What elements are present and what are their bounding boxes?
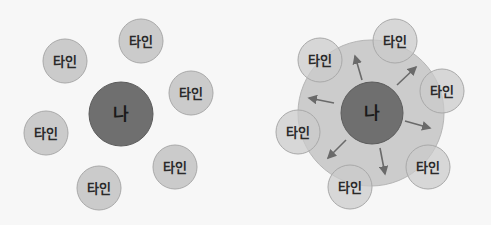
me-label: 나: [113, 104, 129, 124]
other-label: 타인: [34, 126, 58, 141]
other-label: 타인: [53, 54, 77, 69]
other-label: 타인: [383, 34, 407, 49]
other-label: 타인: [338, 180, 362, 195]
other-node: 타인: [420, 69, 464, 113]
other-node: 타인: [77, 166, 121, 210]
relationship-diagram: 타인타인타인타인타인타인나 나타인타인타인타인타인타인: [0, 0, 491, 225]
other-node: 타인: [406, 145, 450, 189]
other-label: 타인: [416, 160, 440, 175]
before-diagram: 타인타인타인타인타인타인나: [24, 19, 213, 210]
other-label: 타인: [430, 84, 454, 99]
after-diagram: 나타인타인타인타인타인타인: [276, 19, 464, 209]
other-label: 타인: [163, 160, 187, 175]
other-node: 타인: [119, 19, 163, 63]
me-node: 나: [341, 82, 403, 144]
other-node: 타인: [153, 145, 197, 189]
other-node: 타인: [276, 110, 320, 154]
other-node: 타인: [373, 19, 417, 63]
other-node: 타인: [169, 71, 213, 115]
other-node: 타인: [328, 165, 372, 209]
me-label: 나: [364, 103, 380, 123]
other-label: 타인: [129, 34, 153, 49]
other-label: 타인: [179, 86, 203, 101]
other-label: 타인: [87, 181, 111, 196]
other-node: 타인: [298, 38, 342, 82]
other-node: 타인: [24, 111, 68, 155]
other-label: 타인: [286, 125, 310, 140]
me-node: 나: [89, 82, 153, 146]
other-node: 타인: [43, 39, 87, 83]
other-label: 타인: [308, 53, 332, 68]
